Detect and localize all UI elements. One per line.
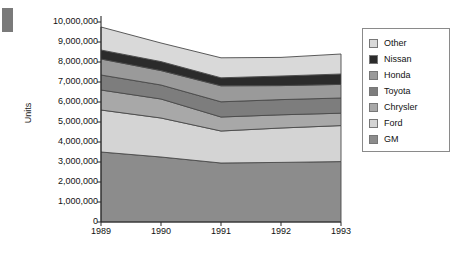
legend-item-label: Chrysler [384, 103, 418, 112]
legend-item-label: Nissan [384, 55, 412, 64]
legend-item-label: GM [384, 135, 399, 144]
legend-item-label: Honda [384, 71, 411, 80]
screenshot-root: Units 10,000,0009,000,0008,000,0007,000,… [0, 0, 455, 255]
chart-legend: OtherNissanHondaToyotaChryslerFordGM [362, 28, 450, 152]
legend-item-chrysler[interactable]: Chrysler [369, 99, 449, 115]
legend-swatch-icon [369, 119, 378, 128]
legend-item-label: Ford [384, 119, 403, 128]
legend-item-gm[interactable]: GM [369, 131, 449, 147]
legend-swatch-icon [369, 39, 378, 48]
legend-item-label: Toyota [384, 87, 411, 96]
legend-swatch-icon [369, 135, 378, 144]
legend-swatch-icon [369, 55, 378, 64]
stacked-area-chart: Units 10,000,0009,000,0008,000,0007,000,… [0, 0, 455, 255]
legend-item-other[interactable]: Other [369, 35, 449, 51]
legend-item-honda[interactable]: Honda [369, 67, 449, 83]
legend-item-ford[interactable]: Ford [369, 115, 449, 131]
legend-swatch-icon [369, 87, 378, 96]
legend-swatch-icon [369, 103, 378, 112]
legend-item-toyota[interactable]: Toyota [369, 83, 449, 99]
legend-item-nissan[interactable]: Nissan [369, 51, 449, 67]
legend-swatch-icon [369, 71, 378, 80]
legend-item-label: Other [384, 39, 407, 48]
